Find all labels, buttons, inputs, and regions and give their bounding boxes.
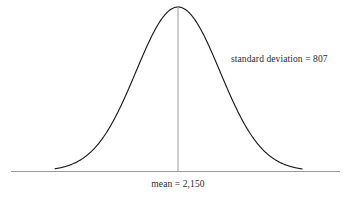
- distribution-plot: [0, 0, 358, 201]
- mean-label: mean = 2,150: [151, 179, 204, 190]
- normal-distribution-figure: standard deviation = 807 mean = 2,150: [0, 0, 358, 201]
- standard-deviation-label: standard deviation = 807: [231, 54, 328, 65]
